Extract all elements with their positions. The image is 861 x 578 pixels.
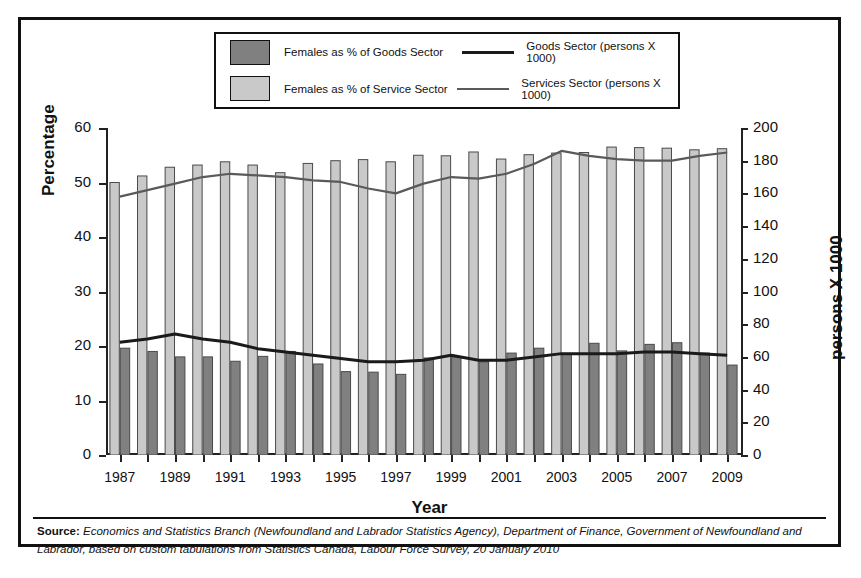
y-tick-left (99, 183, 106, 185)
goods-bar (341, 372, 350, 455)
x-tick-label: 2003 (539, 469, 585, 485)
chart-canvas (106, 128, 741, 455)
goods-bar (452, 357, 461, 455)
legend-row-goods: Females as % of Goods Sector Goods Secto… (216, 34, 678, 71)
y-tick-label-left: 50 (51, 173, 91, 190)
source-note: Source: Economics and Statistics Branch … (37, 523, 822, 559)
goods-bar (231, 361, 240, 455)
x-tick (258, 455, 260, 462)
goods-bar (562, 354, 571, 455)
x-tick-label: 2001 (483, 469, 529, 485)
source-divider (33, 517, 826, 519)
goods-bar-swatch (230, 40, 270, 65)
goods-bar (700, 353, 709, 455)
service-bar (579, 153, 588, 455)
x-tick (479, 455, 481, 462)
goods-bar (314, 364, 323, 455)
goods-bar (479, 362, 488, 455)
goods-bar (258, 356, 267, 455)
y-tick-left (99, 455, 106, 457)
x-tick-label: 2007 (649, 469, 695, 485)
service-bar (524, 155, 533, 455)
service-bar (717, 149, 726, 455)
legend-row-service: Females as % of Service Sector Services … (216, 71, 678, 108)
y-tick-left (99, 346, 106, 348)
service-bar (469, 152, 478, 455)
y-tick-label-right: 0 (753, 445, 793, 462)
x-tick (313, 455, 315, 462)
x-tick-label: 1993 (262, 469, 308, 485)
y-tick-right (741, 455, 748, 457)
y-tick-label-left: 20 (51, 336, 91, 353)
service-bar (607, 147, 616, 455)
y-tick-label-right: 20 (753, 412, 793, 429)
y-tick-label-left: 40 (51, 227, 91, 244)
service-line-swatch (457, 88, 509, 90)
x-tick-label: 1991 (207, 469, 253, 485)
y-tick-left (99, 292, 106, 294)
x-axis-title: Year (21, 498, 838, 518)
x-tick (203, 455, 205, 462)
x-tick-label: 1997 (373, 469, 419, 485)
service-bar (386, 162, 395, 455)
y-tick-label-right: 180 (753, 151, 793, 168)
service-bar (303, 163, 312, 455)
y-axis-right-spine (741, 128, 743, 455)
x-tick-label: 1999 (428, 469, 474, 485)
service-bar (496, 159, 505, 455)
y-tick-label-left: 10 (51, 391, 91, 408)
goods-bar (396, 374, 405, 455)
source-prefix: Source: (37, 525, 80, 537)
y-tick-label-left: 60 (51, 118, 91, 135)
goods-bar (507, 353, 516, 455)
y-tick-left (99, 401, 106, 403)
x-tick (230, 455, 232, 462)
goods-bar (369, 372, 378, 455)
y-tick-left (99, 128, 106, 130)
goods-bar (617, 351, 626, 455)
x-tick (700, 455, 702, 462)
y-axis-right-title: persons X 1000 (827, 235, 847, 360)
x-tick (617, 455, 619, 462)
goods-bar (534, 348, 543, 455)
chart-legend: Females as % of Goods Sector Goods Secto… (214, 32, 680, 109)
goods-bar (203, 357, 212, 455)
x-tick (644, 455, 646, 462)
goods-bar (286, 351, 295, 455)
x-tick (562, 455, 564, 462)
service-bar-swatch (230, 76, 270, 101)
service-bar (441, 156, 450, 455)
y-tick-label-right: 120 (753, 249, 793, 266)
x-tick (175, 455, 177, 462)
x-tick (147, 455, 149, 462)
service-bar (110, 183, 119, 456)
goods-bar (120, 348, 129, 455)
x-tick (396, 455, 398, 462)
y-tick-label-right: 40 (753, 380, 793, 397)
y-tick-left (99, 237, 106, 239)
service-bar (193, 165, 202, 455)
plot-area (106, 128, 741, 455)
goods-bar (424, 358, 433, 455)
y-tick-label-right: 140 (753, 216, 793, 233)
service-bar (662, 148, 671, 455)
x-tick (451, 455, 453, 462)
goods-bar (728, 365, 737, 455)
goods-bar (672, 343, 681, 455)
y-tick-label-right: 80 (753, 314, 793, 331)
service-bar (552, 153, 561, 455)
goods-bar (590, 343, 599, 455)
goods-bar (148, 351, 157, 455)
x-tick-label: 1989 (152, 469, 198, 485)
x-tick (120, 455, 122, 462)
service-bar (634, 148, 643, 455)
service-bar (690, 150, 699, 455)
legend-label-service-line: Services Sector (persons X 1000) (521, 77, 678, 101)
service-bar (248, 165, 257, 455)
goods-bar (645, 344, 654, 455)
x-tick (589, 455, 591, 462)
service-bar (358, 160, 367, 455)
x-tick (368, 455, 370, 462)
source-text: Economics and Statistics Branch (Newfoun… (37, 525, 802, 555)
service-bar (414, 155, 423, 455)
